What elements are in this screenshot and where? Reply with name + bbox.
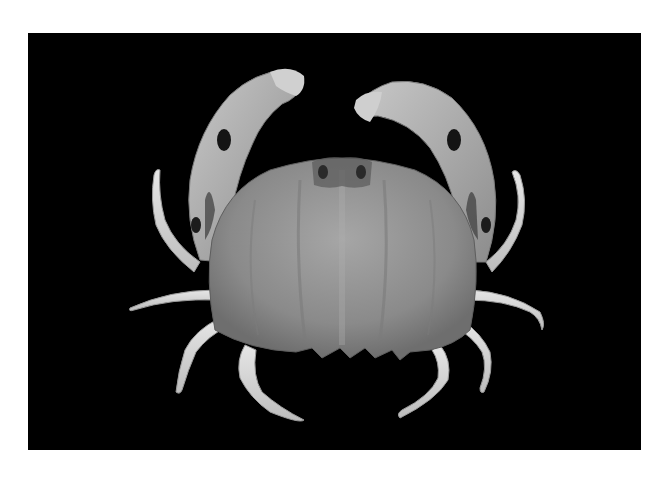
crab-photo xyxy=(28,33,641,450)
right-claw-dark-spot xyxy=(447,129,461,151)
carapace xyxy=(209,157,476,360)
photo-frame xyxy=(28,33,641,450)
left-claw-dark-spot xyxy=(217,129,231,151)
